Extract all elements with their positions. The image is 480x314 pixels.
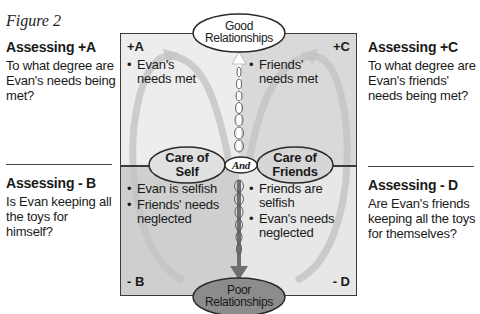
- care-friends-line2: Friends: [257, 165, 333, 179]
- care-friends-line1: Care of: [257, 151, 333, 165]
- poor-label-line2: Relationships: [193, 296, 285, 308]
- down-arrow-icon: [230, 180, 248, 280]
- care-self-line2: Self: [149, 165, 225, 179]
- care-of-self-label: Care of Self: [149, 151, 225, 179]
- good-relationships-label: Good Relationships: [193, 20, 285, 44]
- care-of-friends-label: Care of Friends: [257, 151, 333, 179]
- care-self-line1: Care of: [149, 151, 225, 165]
- and-label: And: [225, 159, 257, 171]
- good-label-line2: Relationships: [193, 32, 285, 44]
- poor-relationships-label: Poor Relationships: [193, 284, 285, 308]
